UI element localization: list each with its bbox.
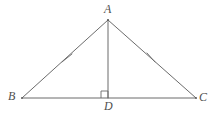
tick-mark-ab bbox=[62, 54, 72, 62]
tick-mark-ac bbox=[147, 53, 155, 62]
vertex-label-a: A bbox=[104, 3, 111, 15]
geometry-figure: A B C D bbox=[0, 0, 218, 117]
vertex-dot-a bbox=[107, 19, 109, 21]
segment-ab bbox=[22, 20, 108, 98]
vertex-dot-c bbox=[195, 97, 197, 99]
vertex-label-c: C bbox=[199, 91, 207, 103]
vertex-dot-b bbox=[21, 97, 23, 99]
right-angle-marker-icon bbox=[101, 91, 108, 98]
vertex-label-b: B bbox=[8, 90, 15, 102]
vertex-label-d: D bbox=[104, 100, 113, 112]
